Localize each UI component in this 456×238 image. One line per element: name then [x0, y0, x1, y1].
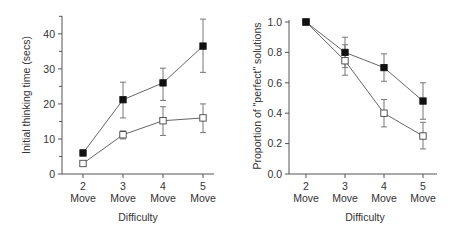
- open-square-marker: [120, 132, 126, 138]
- filled-square-marker: [80, 150, 86, 156]
- y-tick-label: 0: [49, 168, 55, 180]
- y-tick-label: 30: [43, 63, 55, 75]
- series-line: [306, 22, 423, 136]
- filled-square-marker: [381, 64, 387, 70]
- left-y-ticks: 010203040: [43, 16, 62, 180]
- right-series: [303, 19, 426, 149]
- series-line: [83, 118, 203, 164]
- x-tick-word: Move: [110, 192, 136, 204]
- y-tick-label: 40: [43, 28, 55, 40]
- filled-square-marker: [200, 43, 206, 49]
- left-x-axis-label: Difficulty: [118, 211, 158, 223]
- series-line: [306, 22, 423, 101]
- x-tick-number: 3: [120, 180, 126, 192]
- y-tick-label: 0.4: [267, 107, 282, 119]
- left-x-ticks: 2Move3Move4Move5Move: [70, 174, 216, 204]
- open-square-marker: [160, 118, 166, 124]
- filled-square-marker: [120, 97, 126, 103]
- right-x-ticks: 2Move3Move4Move5Move: [293, 174, 436, 204]
- open-square-marker: [342, 58, 348, 64]
- y-tick-label: 0.8: [267, 46, 282, 58]
- x-tick-word: Move: [371, 192, 397, 204]
- x-tick-word: Move: [410, 192, 436, 204]
- right-y-axis-label: Proportion of "perfect" solutions: [251, 23, 263, 170]
- filled-square-marker: [342, 49, 348, 55]
- left-y-axis-label: Initial thinking time (secs): [20, 36, 32, 154]
- x-tick-number: 4: [160, 180, 166, 192]
- y-tick-label: 20: [43, 98, 55, 110]
- filled-square-marker: [160, 80, 166, 86]
- x-tick-number: 5: [420, 180, 426, 192]
- left-series: [80, 19, 206, 167]
- right-x-axis-label: Difficulty: [345, 211, 385, 223]
- filled-square-marker: [303, 19, 309, 25]
- x-tick-word: Move: [70, 192, 96, 204]
- x-tick-number: 3: [342, 180, 348, 192]
- x-tick-number: 5: [200, 180, 206, 192]
- x-tick-word: Move: [150, 192, 176, 204]
- y-tick-label: 0.0: [267, 168, 282, 180]
- y-tick-label: 0.2: [267, 137, 282, 149]
- x-tick-word: Move: [190, 192, 216, 204]
- x-tick-number: 4: [381, 180, 387, 192]
- y-tick-label: 0.6: [267, 77, 282, 89]
- thinking-time-chart: Initial thinking time (secs) 010203040 2…: [20, 16, 216, 223]
- perfect-solutions-chart: Proportion of "perfect" solutions 0.00.2…: [251, 16, 437, 223]
- filled-square-marker: [420, 98, 426, 104]
- series-line: [83, 46, 203, 153]
- right-y-ticks: 0.00.20.40.60.81.0: [267, 16, 289, 180]
- x-tick-word: Move: [332, 192, 358, 204]
- open-square-marker: [80, 160, 86, 166]
- x-tick-number: 2: [303, 180, 309, 192]
- open-square-marker: [200, 115, 206, 121]
- open-square-marker: [420, 133, 426, 139]
- open-square-marker: [381, 110, 387, 116]
- x-tick-word: Move: [293, 192, 319, 204]
- y-tick-label: 1.0: [267, 16, 282, 28]
- y-tick-label: 10: [43, 133, 55, 145]
- x-tick-number: 2: [80, 180, 86, 192]
- figure: Initial thinking time (secs) 010203040 2…: [0, 0, 456, 238]
